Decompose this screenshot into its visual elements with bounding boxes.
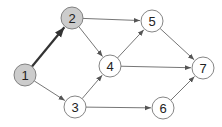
node-label: 5 [148,14,155,29]
edge-4-to-5 [118,30,144,58]
node-1: 1 [14,64,36,86]
node-3: 3 [64,96,86,118]
edge-2-to-4 [79,27,103,57]
edge-2-to-5 [83,18,140,20]
edge-1-to-2 [32,27,64,66]
node-7: 7 [192,57,214,79]
edge-1-to-3 [34,81,65,101]
directed-graph: 1234567 [0,0,222,127]
node-2: 2 [61,7,83,29]
node-4: 4 [99,55,121,77]
node-label: 4 [106,59,113,74]
node-5: 5 [141,10,163,32]
node-6: 6 [152,97,174,119]
node-label: 1 [21,68,28,83]
edge-5-to-7 [160,28,194,59]
node-label: 7 [199,61,206,76]
edge-3-to-6 [86,107,151,108]
edge-6-to-7 [171,76,195,100]
node-label: 2 [68,11,75,26]
nodes-layer: 1234567 [14,7,214,119]
node-label: 3 [71,100,78,115]
edge-3-to-4 [82,75,102,99]
node-label: 6 [159,101,166,116]
edge-4-to-7 [121,66,191,68]
